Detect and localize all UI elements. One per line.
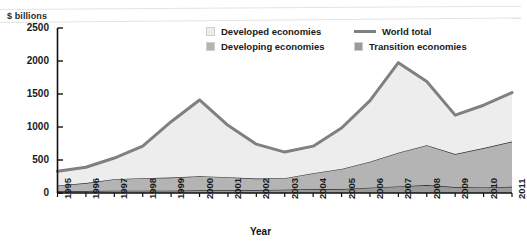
- x-axis-tick-label: 1995: [62, 178, 73, 199]
- y-axis-tick-label: 2000: [5, 55, 49, 66]
- legend-swatch-developing-icon: [206, 42, 215, 51]
- x-axis-tick-label: 1999: [175, 178, 186, 199]
- y-axis-tick-label: 500: [5, 154, 49, 165]
- legend-item-developed-economies: Developed economies: [206, 26, 321, 37]
- legend-label-transition: Transition economies: [369, 41, 467, 52]
- x-axis-tick-label: 2008: [431, 178, 442, 199]
- legend-swatch-world-total-line-icon: [354, 30, 376, 33]
- y-axis-tick-label: 1000: [5, 121, 49, 132]
- x-axis-tick-label: 1998: [147, 178, 158, 199]
- y-axis-tick-label: 0: [5, 187, 49, 198]
- x-axis-tick-label: 1997: [118, 178, 129, 199]
- x-axis-tick-label: 2007: [402, 178, 413, 199]
- x-axis-tick-label: 2000: [204, 178, 215, 199]
- legend-item-transition-economies: Transition economies: [354, 41, 467, 52]
- legend-item-developing-economies: Developing economies: [206, 41, 324, 52]
- x-axis-tick-label: 2009: [459, 178, 470, 199]
- x-axis-tick-label: 2004: [317, 178, 328, 199]
- x-axis-tick-label: 2001: [232, 178, 243, 199]
- legend-swatch-developed-icon: [206, 27, 215, 36]
- legend-item-world-total: World total: [354, 26, 431, 37]
- x-axis-tick-label: 2011: [516, 178, 527, 199]
- stacked-areas-group: [58, 63, 513, 193]
- legend-label-world-total: World total: [382, 26, 431, 37]
- x-axis-tick-label: 2002: [260, 178, 271, 199]
- legend-label-developing: Developing economies: [221, 41, 324, 52]
- y-axis-tick-label: 2500: [5, 22, 49, 33]
- x-axis-tick-label: 2003: [289, 178, 300, 199]
- x-axis-tick-label: 2005: [346, 178, 357, 199]
- x-axis-title: Year: [0, 226, 521, 237]
- x-axis-tick-label: 2010: [488, 178, 499, 199]
- y-axis-tick-label: 1500: [5, 88, 49, 99]
- legend-label-developed: Developed economies: [221, 26, 321, 37]
- x-axis-tick-label: 1996: [90, 178, 101, 199]
- x-axis-tick-label: 2006: [374, 178, 385, 199]
- chart-legend: Developed economies Developing economies…: [206, 26, 512, 60]
- legend-swatch-transition-icon: [354, 42, 363, 51]
